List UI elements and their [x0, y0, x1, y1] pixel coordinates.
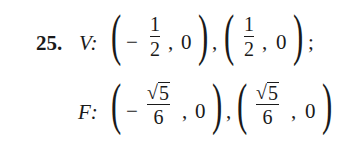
- open-paren: (: [111, 76, 121, 132]
- vertices-label: V:: [79, 31, 97, 56]
- fraction-bar: [244, 36, 254, 37]
- numerator: 1: [150, 13, 160, 35]
- denominator: 6: [153, 106, 163, 128]
- denominator: 2: [244, 38, 254, 60]
- open-paren: (: [111, 7, 121, 63]
- minus-sign: −: [126, 30, 138, 55]
- foci-label: F:: [78, 100, 98, 125]
- square-root: √ 5: [147, 81, 170, 103]
- fraction: 1 2: [150, 13, 160, 60]
- fraction: √ 5 6: [256, 81, 279, 128]
- square-root: √ 5: [256, 81, 279, 103]
- problem-number: 25.: [36, 31, 62, 56]
- fraction-bar: [256, 104, 279, 105]
- y-coordinate: 0: [276, 30, 287, 55]
- open-paren: (: [237, 76, 247, 132]
- fraction: 1 2: [244, 13, 254, 60]
- y-coordinate: 0: [195, 99, 206, 124]
- denominator: 2: [150, 38, 160, 60]
- radicand: 5: [267, 82, 279, 103]
- radicand: 5: [158, 82, 170, 103]
- fraction-bar: [147, 104, 170, 105]
- separator: ,: [212, 30, 217, 55]
- comma: ,: [291, 99, 296, 124]
- numerator: 1: [244, 13, 254, 35]
- terminator: ;: [308, 30, 314, 55]
- radical-sign-icon: √: [147, 81, 158, 103]
- close-paren: ): [198, 7, 208, 63]
- close-paren: ): [212, 76, 222, 132]
- minus-sign: −: [126, 99, 138, 124]
- fraction-bar: [150, 36, 160, 37]
- separator: ,: [226, 99, 231, 124]
- comma: ,: [262, 30, 267, 55]
- y-coordinate: 0: [181, 30, 192, 55]
- denominator: 6: [262, 106, 272, 128]
- close-paren: ): [293, 7, 303, 63]
- y-coordinate: 0: [305, 99, 316, 124]
- close-paren: ): [322, 76, 332, 132]
- radical-sign-icon: √: [256, 81, 267, 103]
- fraction: √ 5 6: [147, 81, 170, 128]
- open-paren: (: [224, 7, 234, 63]
- comma: ,: [168, 30, 173, 55]
- comma: ,: [182, 99, 187, 124]
